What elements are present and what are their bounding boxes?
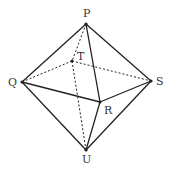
octahedron-diagram: P T Q S R U (0, 0, 171, 172)
edge-pr (86, 24, 100, 102)
edge-tq (22, 61, 72, 82)
edge-qu (22, 82, 86, 150)
edge-qr (22, 82, 100, 102)
vertex-label-q: Q (8, 76, 17, 89)
vertex-label-t: T (77, 50, 85, 63)
vertex-dot-r (98, 100, 101, 103)
vertex-dot-t (70, 59, 73, 62)
vertex-label-s: S (156, 75, 164, 88)
edge-ps (86, 24, 151, 81)
vertex-label-u: U (82, 153, 91, 166)
vertex-label-r: R (104, 104, 113, 117)
diagram-svg: P T Q S R U (0, 0, 171, 172)
edge-rs (100, 81, 151, 102)
vertex-dot-s (149, 79, 152, 82)
vertex-label-p: P (83, 7, 91, 20)
vertex-dot-q (20, 80, 23, 83)
edges-group (22, 24, 151, 150)
vertex-labels-group: P T Q S R U (8, 7, 164, 166)
vertex-dot-u (84, 148, 87, 151)
vertex-dot-p (84, 22, 87, 25)
